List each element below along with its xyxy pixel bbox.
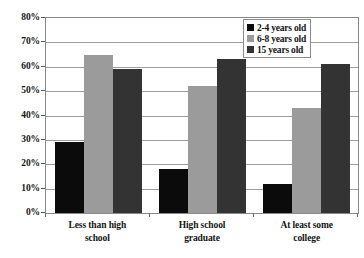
legend-label: 2-4 years old <box>257 23 306 33</box>
y-tick-label: 70% <box>21 36 40 46</box>
y-tick-mark <box>41 115 45 116</box>
y-tick-label: 30% <box>21 134 40 144</box>
legend-label: 6-8 years old <box>257 34 306 44</box>
bar-group <box>150 18 254 213</box>
x-category-label-line: Less than high <box>45 219 150 232</box>
y-tick-label: 80% <box>21 12 40 22</box>
y-tick-mark <box>41 139 45 140</box>
legend: 2-4 years old6-8 years old15 years old <box>243 19 311 58</box>
legend-swatch-icon <box>247 35 254 42</box>
bar-chart: 0%10%20%30%40%50%60%70%80% Less than hig… <box>0 0 364 258</box>
x-axis: Less than highschoolHigh schoolgraduateA… <box>45 219 359 245</box>
y-tick-mark <box>41 41 45 42</box>
bar[interactable] <box>55 142 84 213</box>
legend-swatch-icon <box>247 24 254 31</box>
x-category-label: At least somecollege <box>254 219 359 245</box>
y-tick-label: 60% <box>21 61 40 71</box>
bar[interactable] <box>188 86 217 213</box>
legend-item[interactable]: 2-4 years old <box>247 22 306 33</box>
x-tick-mark <box>253 213 254 217</box>
x-category-label-line: graduate <box>150 232 255 245</box>
y-tick-label: 50% <box>21 85 40 95</box>
bars-layer <box>46 18 358 213</box>
x-category-label-line: college <box>254 232 359 245</box>
y-tick-mark <box>41 90 45 91</box>
y-tick-label: 40% <box>21 110 40 120</box>
x-category-label: Less than highschool <box>45 219 150 245</box>
plot-area <box>45 17 359 214</box>
bar[interactable] <box>159 169 188 213</box>
y-tick-mark <box>41 66 45 67</box>
x-tick-mark <box>149 213 150 217</box>
legend-item[interactable]: 15 years old <box>247 44 306 55</box>
x-category-label-line: At least some <box>254 219 359 232</box>
x-category-label-line: High school <box>150 219 255 232</box>
y-tick-label: 0% <box>26 207 40 217</box>
x-tick-mark <box>45 213 46 217</box>
y-tick-mark <box>41 163 45 164</box>
bar[interactable] <box>217 59 246 213</box>
y-axis: 0%10%20%30%40%50%60%70%80% <box>0 17 40 212</box>
legend-item[interactable]: 6-8 years old <box>247 33 306 44</box>
legend-label: 15 years old <box>257 45 303 55</box>
y-tick-label: 10% <box>21 183 40 193</box>
x-tick-mark <box>357 213 358 217</box>
y-tick-mark <box>41 188 45 189</box>
x-category-label-line: school <box>45 232 150 245</box>
x-category-label: High schoolgraduate <box>150 219 255 245</box>
bar[interactable] <box>321 64 350 213</box>
bar[interactable] <box>263 184 292 213</box>
bar[interactable] <box>84 55 113 213</box>
y-tick-label: 20% <box>21 158 40 168</box>
y-tick-mark <box>41 17 45 18</box>
bar[interactable] <box>113 69 142 213</box>
bar[interactable] <box>292 108 321 213</box>
legend-swatch-icon <box>247 46 254 53</box>
bar-group <box>46 18 150 213</box>
